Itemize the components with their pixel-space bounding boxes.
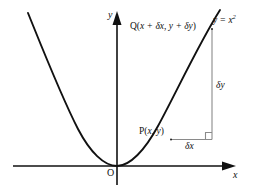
curve-equation-exponent: 2 [233,13,236,20]
delta-x-label: δx [185,142,194,152]
y-axis-group [113,11,122,185]
point-q-prefix: Q( [130,21,140,31]
point-q-marker [211,28,213,30]
right-angle-marker-icon [206,133,213,140]
figure-container: y x O P(x, y) Q(x + δx, y + δy) δx δy y … [0,0,261,193]
point-p-suffix: ) [161,126,164,136]
x-axis-group [13,162,236,171]
point-q-suffix: ) [193,21,196,31]
x-axis-label: x [233,170,237,180]
point-q-x-term: x + δx [140,21,164,31]
y-axis-arrowhead [113,11,122,25]
point-p-label: P(x, y) [139,127,164,137]
curve-equation-base: y = x [213,15,233,25]
point-q-y-term: y + δy [169,21,193,31]
origin-label: O [107,168,114,178]
curve-equation-label: y = x2 [213,14,236,26]
y-axis-label: y [108,10,112,20]
point-p-marker [170,139,172,141]
delta-y-label: δy [216,81,225,91]
point-q-label: Q(x + δx, y + δy) [130,22,196,32]
